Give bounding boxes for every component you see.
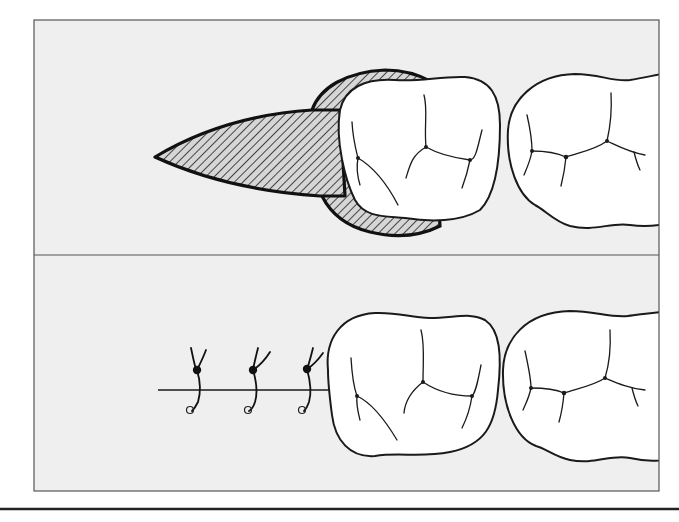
molar-2-bottom: [503, 311, 679, 461]
molar-1-top: [339, 77, 500, 221]
dental-surgery-figure: [0, 0, 679, 522]
